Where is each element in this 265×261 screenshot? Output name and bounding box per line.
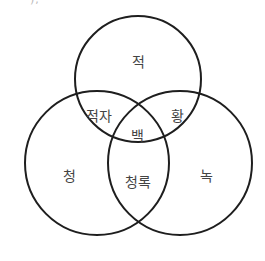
label-yellow: 황 (171, 108, 184, 124)
label-red: 적 (132, 54, 145, 70)
label-blue: 청 (63, 168, 76, 184)
label-magenta: 적자 (86, 108, 112, 124)
label-white: 백 (131, 128, 144, 144)
venn-diagram: 적 적자 황 백 청 청록 녹 (0, 0, 265, 261)
label-cyan: 청록 (125, 174, 151, 190)
label-green: 녹 (200, 168, 213, 184)
